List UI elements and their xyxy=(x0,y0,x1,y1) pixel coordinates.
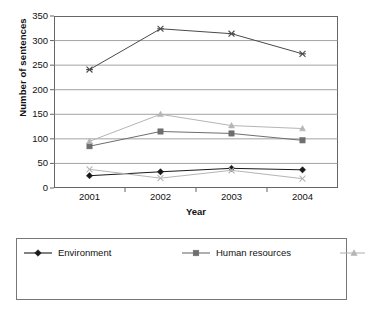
y-axis-tick-label: 100 xyxy=(22,134,48,144)
y-axis-tick-label: 200 xyxy=(22,85,48,95)
legend-item-environment[interactable]: Environment xyxy=(23,244,181,261)
y-axis-tick-label: 300 xyxy=(22,36,48,46)
y-axis-tick-label: 50 xyxy=(22,158,48,168)
plot-series-layer xyxy=(54,16,338,188)
series-environment xyxy=(86,165,305,179)
legend-label: Human resources xyxy=(216,247,291,258)
y-axis-tick-label: 0 xyxy=(22,183,48,193)
gridlines xyxy=(50,16,338,188)
line-chart: Number of sentences 05010015020025030035… xyxy=(0,0,365,314)
x-axis-tick-labels: 2001200220032004 xyxy=(54,191,338,207)
legend-marker-diamond-icon xyxy=(23,247,53,259)
legend: EnvironmentHuman resourcesProductCommuni… xyxy=(16,238,347,300)
legend-marker-triangle-icon xyxy=(339,247,365,259)
data-series-group xyxy=(86,26,306,182)
x-axis-tick-label: 2003 xyxy=(208,191,256,202)
x-axis-tick-label: 2001 xyxy=(66,191,114,202)
legend-item-human-resources[interactable]: Human resources xyxy=(181,244,339,261)
legend-items: EnvironmentHuman resourcesProductCommuni… xyxy=(23,244,343,261)
y-axis-tick-label: 250 xyxy=(22,60,48,70)
x-axis-tick-label: 2002 xyxy=(137,191,185,202)
legend-label: Environment xyxy=(58,247,111,258)
y-axis-tick-label: 150 xyxy=(22,109,48,119)
y-axis-tick-label: 350 xyxy=(22,11,48,21)
x-axis-title: Year xyxy=(54,206,338,217)
legend-marker-square-icon xyxy=(181,247,211,259)
legend-item-product[interactable]: Product xyxy=(339,244,365,261)
x-axis-tick-label: 2004 xyxy=(279,191,327,202)
